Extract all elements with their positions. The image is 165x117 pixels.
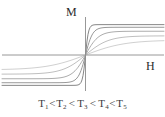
caption-subscript: 1 xyxy=(45,103,49,111)
caption-subscript: 5 xyxy=(123,103,127,111)
caption-term-t5: T5 xyxy=(116,97,127,109)
caption-term-t1: T1 xyxy=(38,97,49,109)
caption-term-t3: T3 xyxy=(77,97,88,109)
caption-subscript: 2 xyxy=(63,103,67,111)
caption-subscript: 4 xyxy=(105,103,109,111)
x-axis-label: H xyxy=(146,60,155,72)
caption-relation-operator: < xyxy=(67,97,77,109)
temperature-ordering-caption: T1<T2<T3<T4<T5 xyxy=(0,97,165,109)
caption-subscript: 3 xyxy=(84,103,88,111)
magnetization-field-figure: M H T1<T2<T3<T4<T5 xyxy=(0,0,165,117)
caption-term-t4: T4 xyxy=(98,97,109,109)
caption-term-t2: T2 xyxy=(56,97,67,109)
caption-relation-operator: < xyxy=(88,97,98,109)
y-axis-label: M xyxy=(66,6,77,18)
